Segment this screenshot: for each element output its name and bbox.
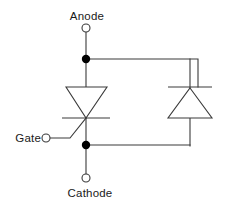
anode-label: Anode xyxy=(70,10,104,22)
diode-symbol xyxy=(168,87,212,118)
cathode-junction-dot xyxy=(82,141,90,149)
anode-junction-dot xyxy=(82,55,90,63)
thyristor-symbol xyxy=(50,87,110,138)
thyristor-gate-lead xyxy=(50,118,86,138)
circuit-canvas: Anode Gate Cathode xyxy=(0,0,228,207)
gate-label: Gate xyxy=(15,132,41,144)
thyristor-triangle xyxy=(66,87,107,118)
cathode-terminal-node[interactable] xyxy=(82,174,90,182)
circuit-diagram: Anode Gate Cathode xyxy=(0,0,228,207)
cathode-label: Cathode xyxy=(68,187,113,199)
diode-triangle xyxy=(168,88,212,118)
gate-terminal-node[interactable] xyxy=(42,134,50,142)
label-group: Anode Gate Cathode xyxy=(15,10,112,199)
anode-terminal-node[interactable] xyxy=(82,24,90,32)
top-rail-wire xyxy=(86,59,198,87)
